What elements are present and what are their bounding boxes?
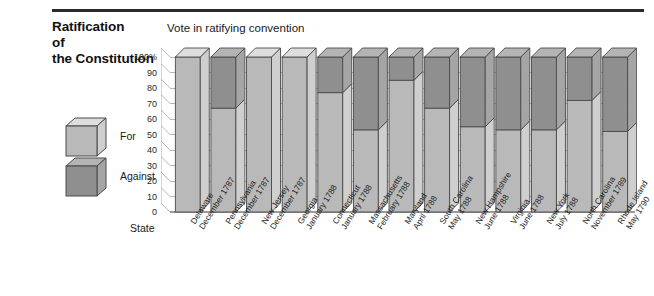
cube-icon <box>64 156 108 200</box>
y-axis: 100%9080706050403020100 <box>119 46 157 214</box>
bar-new-york[interactable] <box>531 48 565 212</box>
y-tick-label: 20 <box>123 176 157 186</box>
bar-north-carolina[interactable] <box>567 48 601 212</box>
bar-segment-against <box>496 57 521 130</box>
y-tick-label: 0 <box>123 207 157 217</box>
bar-south-carolina[interactable] <box>425 48 459 212</box>
y-tick-label: 90 <box>123 68 157 78</box>
bar-segment-against <box>353 57 378 130</box>
bar-segment-against <box>211 57 236 108</box>
y-tick-label: 10 <box>123 192 157 202</box>
y-tick-label: 50 <box>123 130 157 140</box>
bar-delaware[interactable] <box>175 48 209 212</box>
bar-segment-against <box>567 57 592 100</box>
bar-segment-against <box>389 57 414 80</box>
y-tick-label: 60 <box>123 114 157 124</box>
bar-segment-against <box>531 57 556 130</box>
y-tick-label: 80 <box>123 83 157 93</box>
bar-segment-for <box>175 57 200 212</box>
x-axis-title: State <box>130 222 155 234</box>
bar-segment-against <box>603 57 628 131</box>
bar-segment-against <box>425 57 450 108</box>
chart-title: Vote in ratifying convention <box>167 22 304 34</box>
header-rule <box>52 9 644 12</box>
bar-segment-against <box>460 57 485 127</box>
y-tick-label: 70 <box>123 99 157 109</box>
bar-segment-against <box>318 57 343 93</box>
y-tick-label: 30 <box>123 161 157 171</box>
y-tick-label: 40 <box>123 145 157 155</box>
y-tick-label: 100% <box>123 52 157 62</box>
